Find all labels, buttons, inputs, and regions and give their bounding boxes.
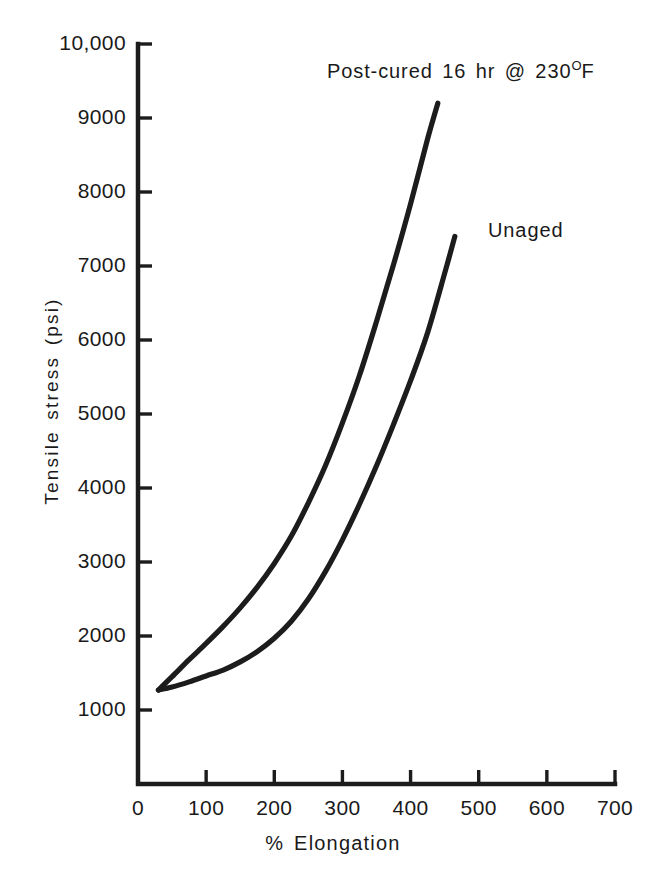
x-tick-label: 700 [575,796,655,820]
y-tick-label: 5000 [0,401,126,425]
tensile-stress-elongation-chart: 10002000300040005000600070008000900010,0… [0,0,666,880]
series-label-unaged: Unaged [488,219,563,242]
y-axis-title: Tensile stress (psi) [41,271,63,531]
y-tick-label: 3000 [0,549,126,573]
y-tick-label: 4000 [0,475,126,499]
y-tick-label: 6000 [0,327,126,351]
y-tick-label: 8000 [0,179,126,203]
x-axis-title: % Elongation [0,832,666,855]
y-tick-label: 10,000 [0,31,126,55]
series-label-post-cured-suffix: F [582,60,595,82]
series-label-post-cured: Post-cured 16 hr @ 230OF [327,58,595,83]
data-curves [158,103,454,690]
y-tick-label: 7000 [0,253,126,277]
curve-unaged [158,236,454,690]
y-tick-label: 1000 [0,697,126,721]
y-tick-label: 9000 [0,105,126,129]
curve-post-cured-16-hr-230-f [158,103,437,690]
plot-canvas [0,0,666,880]
degree-symbol-icon: O [571,58,581,73]
series-label-post-cured-text: Post-cured 16 hr @ 230 [327,60,571,82]
y-tick-label: 2000 [0,623,126,647]
